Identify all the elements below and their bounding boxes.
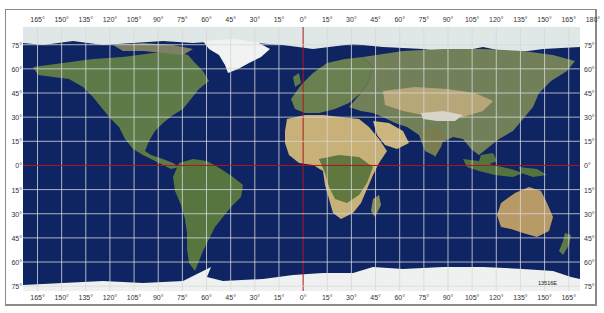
latitude-label-left: 30° xyxy=(11,114,22,121)
longitude-label-top: 105° xyxy=(465,16,479,23)
latitude-label-right: 60° xyxy=(584,65,595,72)
longitude-label-bottom: 30° xyxy=(346,294,357,301)
longitude-label-bottom: 45° xyxy=(225,294,236,301)
longitude-label-bottom: 150° xyxy=(537,294,551,301)
latitude-label-right: 75° xyxy=(584,283,595,290)
longitude-label-top: 60° xyxy=(201,16,212,23)
latitude-label-right: 75° xyxy=(584,41,595,48)
latitude-label-left: 45° xyxy=(11,234,22,241)
longitude-label-bottom: 15° xyxy=(322,294,333,301)
longitude-label-top: 135° xyxy=(79,16,93,23)
longitude-label-top: 120° xyxy=(489,16,503,23)
longitude-label-bottom: 105° xyxy=(465,294,479,301)
latitude-label-right: 30° xyxy=(584,210,595,217)
longitude-label-top: 30° xyxy=(250,16,261,23)
longitude-label-top: 15° xyxy=(274,16,285,23)
longitude-label-top: 105° xyxy=(127,16,141,23)
latitude-label-left: 0° xyxy=(15,162,22,169)
latitude-label-left: 60° xyxy=(11,259,22,266)
longitude-label-bottom: 150° xyxy=(54,294,68,301)
latitude-label-right: 15° xyxy=(584,138,595,145)
longitude-label-top: 60° xyxy=(394,16,405,23)
longitude-label-top: 15° xyxy=(322,16,333,23)
longitude-label-top: 90° xyxy=(443,16,454,23)
south-america xyxy=(173,159,243,271)
longitude-label-top: 165° xyxy=(30,16,44,23)
longitude-label-top: 180° xyxy=(586,16,600,23)
longitude-label-top: 45° xyxy=(370,16,381,23)
plate-id-label: 13516E xyxy=(538,280,557,286)
longitude-label-bottom: 120° xyxy=(489,294,503,301)
longitude-label-bottom: 60° xyxy=(394,294,405,301)
longitude-label-top: 120° xyxy=(103,16,117,23)
map-canvas xyxy=(23,27,580,291)
latitude-label-left: 15° xyxy=(11,138,22,145)
longitude-label-bottom: 165° xyxy=(30,294,44,301)
latitude-label-right: 0° xyxy=(584,162,591,169)
longitude-label-bottom: 30° xyxy=(250,294,261,301)
latitude-label-left: 60° xyxy=(11,65,22,72)
longitude-label-top: 0° xyxy=(300,16,307,23)
longitude-label-top: 30° xyxy=(346,16,357,23)
longitude-label-bottom: 15° xyxy=(274,294,285,301)
new-zealand xyxy=(559,233,571,255)
longitude-label-bottom: 0° xyxy=(300,294,307,301)
latitude-label-left: 75° xyxy=(11,283,22,290)
longitude-label-top: 90° xyxy=(153,16,164,23)
latitude-label-left: 45° xyxy=(11,90,22,97)
longitude-label-bottom: 135° xyxy=(79,294,93,301)
longitude-label-top: 135° xyxy=(513,16,527,23)
new-guinea xyxy=(519,167,547,177)
longitude-label-bottom: 135° xyxy=(513,294,527,301)
longitude-label-bottom: 105° xyxy=(127,294,141,301)
longitude-label-top: 150° xyxy=(54,16,68,23)
latitude-label-right: 30° xyxy=(584,114,595,121)
longitude-label-bottom: 165° xyxy=(561,294,575,301)
longitude-label-bottom: 90° xyxy=(153,294,164,301)
latitude-label-left: 75° xyxy=(11,41,22,48)
longitude-label-bottom: 90° xyxy=(443,294,454,301)
greenland xyxy=(203,39,270,73)
longitude-label-top: 165° xyxy=(561,16,575,23)
latitude-label-right: 45° xyxy=(584,234,595,241)
longitude-label-top: 75° xyxy=(419,16,430,23)
longitude-label-top: 75° xyxy=(177,16,188,23)
longitude-label-bottom: 120° xyxy=(103,294,117,301)
british-isles xyxy=(293,73,301,87)
longitude-label-top: 150° xyxy=(537,16,551,23)
longitude-label-bottom: 75° xyxy=(177,294,188,301)
latitude-label-right: 45° xyxy=(584,90,595,97)
longitude-label-bottom: 60° xyxy=(201,294,212,301)
latitude-label-left: 15° xyxy=(11,186,22,193)
longitude-label-bottom: 45° xyxy=(370,294,381,301)
longitude-label-bottom: 75° xyxy=(419,294,430,301)
world-map xyxy=(23,27,580,291)
latitude-label-left: 30° xyxy=(11,210,22,217)
latitude-label-right: 60° xyxy=(584,259,595,266)
latitude-label-right: 15° xyxy=(584,186,595,193)
longitude-label-top: 45° xyxy=(225,16,236,23)
